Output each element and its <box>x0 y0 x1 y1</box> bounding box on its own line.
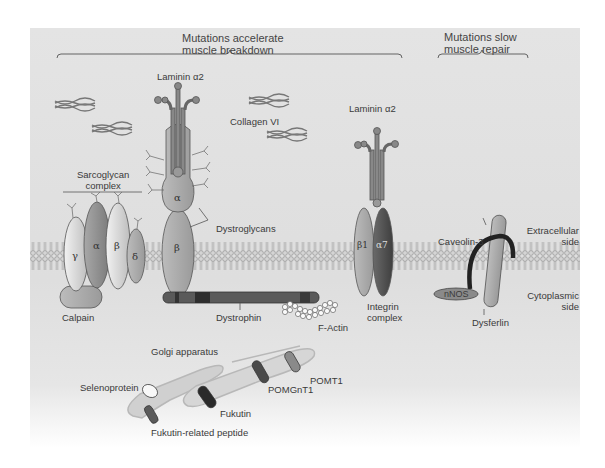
label-pomgnt1: POMGnT1 <box>268 384 313 395</box>
dystroglycans-pointer <box>190 208 208 227</box>
label-cytoplasmic-line1: Cytoplasmic <box>525 290 579 301</box>
label-integrin-complex: Integrin complex <box>367 301 402 323</box>
label-dysferlin: Dysferlin <box>472 317 509 328</box>
sarcoglycan-complex <box>64 202 145 291</box>
label-extracellular-line2: side <box>525 236 579 247</box>
label-extracellular-line1: Extracellular <box>525 225 579 236</box>
label-laminin-left: Laminin α2 <box>157 71 204 82</box>
header-left-line1: Mutations accelerate <box>182 32 284 44</box>
label-cytoplasmic-side: Cytoplasmic side <box>525 290 579 312</box>
header-left-line2: muscle breakdown <box>182 44 284 56</box>
glyph-dg-alpha: α <box>174 192 181 203</box>
label-integrin-line2: complex <box>367 312 402 323</box>
label-sarcoglycan-line1: Sarcoglycan <box>77 169 129 180</box>
laminin-left <box>155 83 200 178</box>
label-integrin-line1: Integrin <box>367 301 402 312</box>
label-sarcoglycan-complex: Sarcoglycan complex <box>77 169 129 191</box>
integrin-complex <box>354 208 393 296</box>
calpain-shape <box>60 286 102 308</box>
label-collagen: Collagen VI <box>230 116 279 127</box>
label-f-actin: F-Actin <box>318 322 348 333</box>
label-sarcoglycan-line2: complex <box>77 180 129 191</box>
header-right-line1: Mutations slow <box>444 31 517 43</box>
label-extracellular-side: Extracellular side <box>525 225 579 247</box>
header-slow-repair: Mutations slow muscle repair <box>444 31 517 55</box>
glyph-sg-delta: δ <box>132 251 138 262</box>
label-selenoprotein: Selenoprotein <box>80 382 139 393</box>
label-laminin-right: Laminin α2 <box>349 103 396 114</box>
label-pomt1: POMT1 <box>310 375 343 386</box>
laminin-right <box>355 128 399 208</box>
glyph-dg-beta: β <box>174 242 180 253</box>
label-fukutin: Fukutin <box>220 408 251 419</box>
glyph-integrin-beta1: β1 <box>357 240 368 250</box>
glyph-sg-gamma: γ <box>72 250 78 261</box>
label-calpain: Calpain <box>62 312 94 323</box>
header-accelerate-breakdown: Mutations accelerate muscle breakdown <box>182 32 284 56</box>
label-dystroglycans: Dystroglycans <box>216 223 276 234</box>
label-dystrophin: Dystrophin <box>216 312 261 323</box>
glyph-integrin-alpha7: α7 <box>376 240 388 250</box>
label-golgi-apparatus: Golgi apparatus <box>151 346 218 357</box>
label-nnos: nNOS <box>444 289 469 300</box>
glyph-sg-alpha: α <box>93 240 100 251</box>
label-cytoplasmic-line2: side <box>525 301 579 312</box>
glyph-sg-beta: β <box>114 240 120 251</box>
header-right-line2: muscle repair <box>444 43 517 55</box>
label-caveolin: Caveolin-3 <box>438 236 483 247</box>
label-fukutin-related-peptide: Fukutin-related peptide <box>151 427 248 438</box>
muscle-membrane-diagram <box>0 0 605 468</box>
